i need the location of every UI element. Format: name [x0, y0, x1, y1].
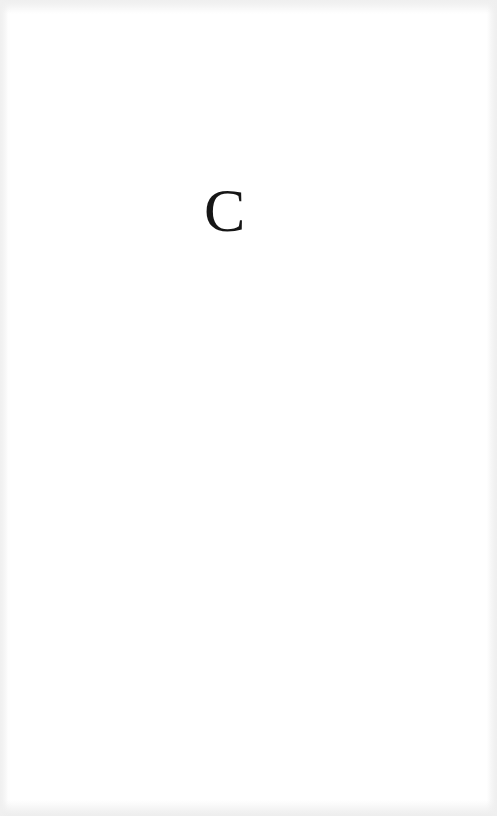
scan-edge-left: [0, 0, 8, 816]
scan-edge-bottom: [0, 800, 497, 816]
document-page: C: [0, 0, 497, 816]
scan-edge-right: [487, 0, 497, 816]
scan-edge-top: [0, 0, 497, 14]
page-letter: C: [204, 170, 245, 250]
